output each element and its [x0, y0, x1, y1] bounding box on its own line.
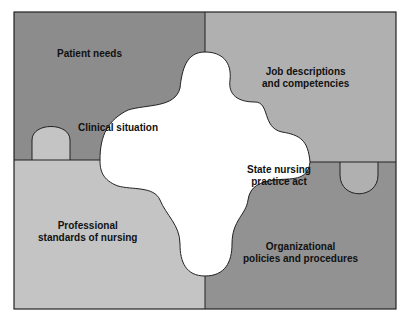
label-organizational-policies: Organizational policies and procedures: [243, 241, 358, 265]
label-line: Professional: [38, 220, 137, 232]
label-line: practice act: [247, 176, 311, 188]
tab-right: [340, 162, 378, 194]
label-line: and competencies: [262, 78, 349, 90]
label-professional-standards: Professional standards of nursing: [38, 220, 137, 244]
label-clinical-situation: Clinical situation: [78, 122, 158, 134]
label-line: Organizational: [243, 241, 358, 253]
label-line: State nursing: [247, 164, 311, 176]
tab-left: [32, 127, 70, 161]
label-line: policies and procedures: [243, 253, 358, 265]
label-patient-needs: Patient needs: [57, 48, 122, 60]
label-job-descriptions: Job descriptions and competencies: [262, 66, 349, 90]
label-state-nursing: State nursing practice act: [247, 164, 311, 188]
label-line: standards of nursing: [38, 232, 137, 244]
label-line: Job descriptions: [262, 66, 349, 78]
